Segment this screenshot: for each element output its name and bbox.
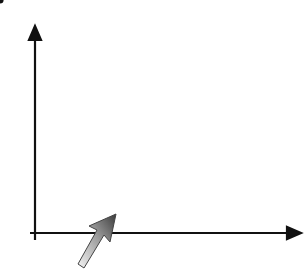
coordinate-plane: [0, 0, 308, 273]
x-axis-arrow-icon: [287, 227, 301, 239]
y-axis-arrow-icon: [29, 26, 41, 40]
enlargement-diagram: [0, 0, 308, 273]
axes: [29, 26, 301, 240]
pen-pointer-arrow-icon: [78, 214, 116, 268]
center-of-enlargement-point: [0, 0, 4, 4]
